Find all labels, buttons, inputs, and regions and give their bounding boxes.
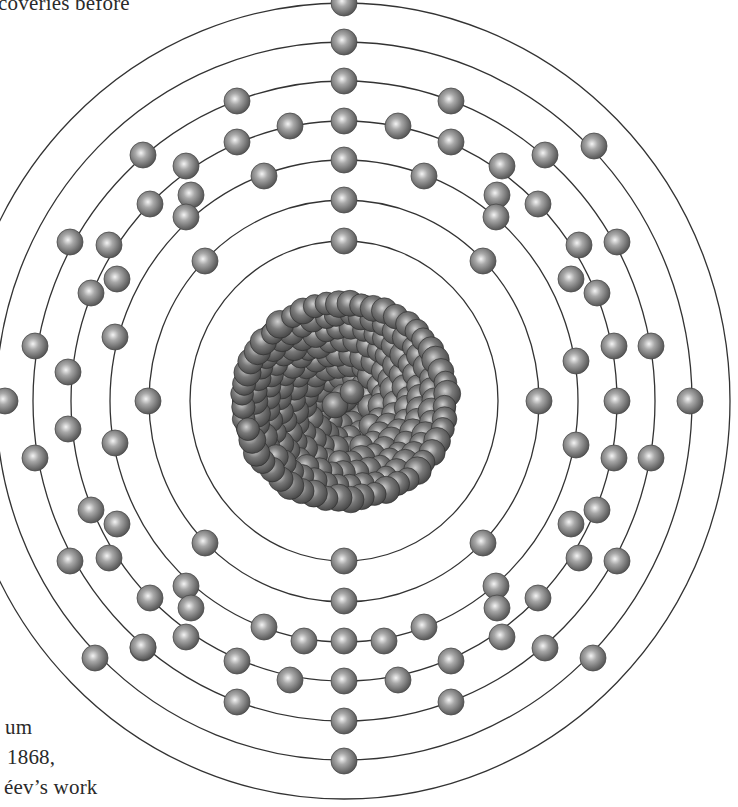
electron [331, 228, 357, 254]
bohr-atom-diagram [0, 0, 738, 807]
electron [130, 634, 156, 660]
text-fragment-bottom-2: 1868, [7, 745, 55, 770]
electron [173, 204, 199, 230]
electron [137, 585, 163, 611]
electron [55, 416, 81, 442]
electron [173, 153, 199, 179]
electron [470, 530, 496, 556]
electron [532, 635, 558, 661]
electron [331, 708, 357, 734]
electron [525, 191, 551, 217]
electron [489, 624, 515, 650]
electron [558, 511, 584, 537]
text-fragment-bottom-1: um [5, 715, 32, 740]
electron [57, 548, 83, 574]
electron [104, 511, 130, 537]
electron [331, 68, 357, 94]
electron [489, 153, 515, 179]
electron [604, 229, 630, 255]
electron [470, 248, 496, 274]
electron [677, 388, 703, 414]
text-fragment-bottom-3: éev’s work [4, 775, 98, 800]
electron [192, 248, 218, 274]
electron [385, 113, 411, 139]
electron [525, 585, 551, 611]
electron [584, 280, 610, 306]
electron [411, 163, 437, 189]
electron [411, 614, 437, 640]
electron [438, 689, 464, 715]
electron [331, 108, 357, 134]
electron [532, 142, 558, 168]
electron [331, 0, 357, 16]
electron [173, 573, 199, 599]
electron [224, 689, 250, 715]
electron [331, 29, 357, 55]
electron [78, 280, 104, 306]
electron [526, 388, 552, 414]
electron [178, 182, 204, 208]
electron [331, 588, 357, 614]
electron [224, 129, 250, 155]
electron [251, 614, 277, 640]
electron [331, 748, 357, 774]
electron [57, 229, 83, 255]
electron [224, 88, 250, 114]
electron [638, 333, 664, 359]
electron [104, 266, 130, 292]
electron [638, 445, 664, 471]
electron [604, 548, 630, 574]
electron [331, 668, 357, 694]
nucleus [231, 290, 461, 513]
electron [581, 133, 607, 159]
electron [484, 595, 510, 621]
electron [135, 388, 161, 414]
electron [563, 432, 589, 458]
electron [78, 497, 104, 523]
electron [331, 628, 357, 654]
electron [102, 324, 128, 350]
electron [438, 648, 464, 674]
electron [96, 232, 122, 258]
electron [0, 388, 18, 414]
electron [22, 333, 48, 359]
electron [277, 667, 303, 693]
text-fragment-top: coveries before [0, 0, 130, 16]
electron [173, 624, 199, 650]
electron [566, 545, 592, 571]
electron [251, 163, 277, 189]
electron [178, 595, 204, 621]
electron [563, 348, 589, 374]
electron [483, 204, 509, 230]
electron [130, 142, 156, 168]
electron [558, 266, 584, 292]
electron [566, 232, 592, 258]
electron [331, 187, 357, 213]
electron [438, 129, 464, 155]
electron [601, 445, 627, 471]
electron [55, 359, 81, 385]
electron [137, 191, 163, 217]
electron [82, 645, 108, 671]
electron [438, 88, 464, 114]
electron [224, 648, 250, 674]
electron [385, 667, 411, 693]
electron [22, 445, 48, 471]
electron [601, 333, 627, 359]
electron [291, 628, 317, 654]
electron [584, 497, 610, 523]
electron [192, 530, 218, 556]
electron [604, 388, 630, 414]
electron [331, 548, 357, 574]
electron [580, 645, 606, 671]
electron [331, 147, 357, 173]
electron [371, 628, 397, 654]
electron [96, 545, 122, 571]
electron [102, 430, 128, 456]
electron [277, 113, 303, 139]
